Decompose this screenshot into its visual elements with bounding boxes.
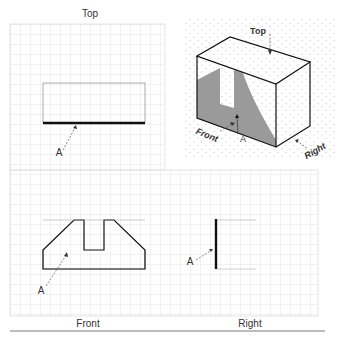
iso-callout: A — [238, 134, 248, 144]
right-view-title: Right — [220, 318, 280, 329]
right-view-callout: A — [184, 256, 196, 267]
front-view-callout: A — [35, 285, 47, 296]
orthographic-drawing — [0, 0, 338, 347]
front-right-grid — [10, 170, 318, 316]
front-view-title: Front — [58, 318, 118, 329]
iso-top-label: Top — [246, 26, 270, 36]
top-view-title: Top — [70, 8, 110, 19]
top-view-callout: A — [53, 147, 65, 158]
top-view — [10, 24, 165, 170]
